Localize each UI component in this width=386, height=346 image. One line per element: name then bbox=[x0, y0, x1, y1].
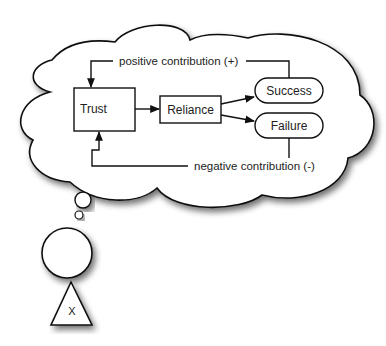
agent-body bbox=[51, 282, 92, 325]
node-trust-label: Trust bbox=[80, 102, 108, 116]
node-reliance[interactable]: Reliance bbox=[160, 96, 221, 123]
agent-label: X bbox=[68, 305, 76, 317]
node-trust[interactable]: Trust bbox=[74, 88, 135, 131]
edge-negative-label: negative contribution (-) bbox=[194, 160, 315, 172]
agent-head bbox=[42, 228, 92, 278]
node-failure[interactable]: Failure bbox=[255, 113, 323, 138]
node-success[interactable]: Success bbox=[255, 78, 323, 103]
diagram-canvas: X Trust Reliance Success Failure positiv… bbox=[0, 0, 386, 346]
edge-positive-label: positive contribution (+) bbox=[119, 55, 238, 67]
node-success-label: Success bbox=[266, 84, 311, 98]
node-reliance-label: Reliance bbox=[167, 103, 214, 117]
thought-bubble-small bbox=[75, 211, 83, 219]
node-failure-label: Failure bbox=[271, 119, 308, 133]
thought-bubble-large bbox=[75, 192, 91, 208]
